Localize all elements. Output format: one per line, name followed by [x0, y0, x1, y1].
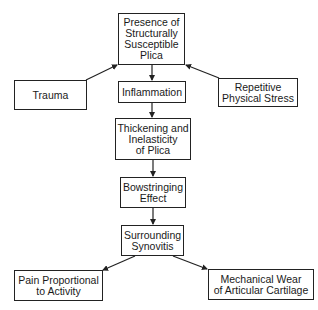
- node-trauma: Trauma: [14, 80, 87, 110]
- node-bowstringing-effect: Bowstringing Effect: [120, 177, 186, 208]
- node-label: Mechanical Wear of Articular Cartilage: [214, 274, 309, 296]
- edge-repetitive-to-presence: [186, 65, 219, 78]
- node-repetitive-physical-stress: Repetitive Physical Stress: [218, 78, 298, 107]
- node-pain-proportional: Pain Proportional to Activity: [14, 270, 103, 301]
- node-label: Bowstringing Effect: [123, 182, 183, 204]
- node-label: Inflammation: [122, 87, 182, 98]
- edge-synovitis-to-pain: [103, 256, 135, 270]
- node-label: Surrounding Synovitis: [124, 230, 181, 252]
- edge-synovitis-to-wear: [173, 256, 207, 269]
- node-label: Repetitive Physical Stress: [222, 82, 294, 104]
- edge-trauma-to-presence: [86, 65, 117, 80]
- node-inflammation: Inflammation: [118, 81, 186, 103]
- node-label: Pain Proportional to Activity: [18, 275, 99, 297]
- node-label: Thickening and Inelasticity of Plica: [117, 123, 188, 156]
- node-mechanical-wear: Mechanical Wear of Articular Cartilage: [208, 269, 314, 300]
- node-surrounding-synovitis: Surrounding Synovitis: [121, 225, 184, 256]
- node-label: Trauma: [33, 90, 69, 101]
- node-label: Presence of Structurally Susceptible Pli…: [123, 17, 179, 61]
- node-thickening-inelasticity: Thickening and Inelasticity of Plica: [115, 118, 191, 160]
- node-presence-of-plica: Presence of Structurally Susceptible Pli…: [118, 13, 185, 65]
